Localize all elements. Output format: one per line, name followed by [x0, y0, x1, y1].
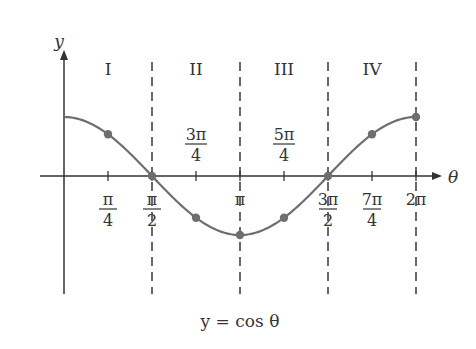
- data-point: [236, 231, 244, 239]
- tick-label: π2: [143, 190, 161, 230]
- data-point: [192, 214, 200, 222]
- tick-denominator: 4: [367, 211, 377, 230]
- tick-label: 2π: [406, 190, 427, 209]
- tick-numerator: 5π: [274, 125, 295, 144]
- data-point: [412, 113, 420, 121]
- quadrant-label-2: II: [189, 59, 202, 79]
- tick-label: π4: [99, 190, 117, 230]
- data-point: [148, 172, 156, 180]
- tick-numerator: 7π: [362, 190, 383, 209]
- cosine-chart: y θ I II III IV π4π23π4π5π43π27π42π y = …: [0, 0, 476, 349]
- tick-numerator: 3π: [186, 125, 207, 144]
- data-point: [324, 172, 332, 180]
- tick-numerator: π: [103, 190, 114, 209]
- tick-label: 3π2: [318, 190, 339, 230]
- tick-numerator: π: [147, 190, 158, 209]
- chart-caption: y = cos θ: [200, 311, 280, 331]
- x-axis-label: θ: [448, 167, 458, 187]
- data-point: [280, 214, 288, 222]
- tick-numerator: π: [235, 190, 246, 209]
- data-point: [104, 130, 112, 138]
- tick-denominator: 4: [279, 146, 289, 165]
- tick-denominator: 4: [191, 146, 201, 165]
- data-point: [368, 130, 376, 138]
- tick-numerator: 3π: [318, 190, 339, 209]
- tick-denominator: 2: [147, 211, 157, 230]
- tick-label: 3π4: [185, 125, 207, 165]
- quadrant-label-1: I: [105, 59, 112, 79]
- quadrant-label-3: III: [274, 59, 294, 79]
- y-axis-label: y: [53, 31, 64, 51]
- tick-numerator: 2π: [406, 190, 427, 209]
- tick-label: 7π4: [362, 190, 383, 230]
- tick-denominator: 4: [103, 211, 113, 230]
- tick-label: 5π4: [273, 125, 295, 165]
- tick-label: π: [235, 190, 246, 209]
- tick-denominator: 2: [323, 211, 333, 230]
- quadrant-label-4: IV: [363, 59, 383, 79]
